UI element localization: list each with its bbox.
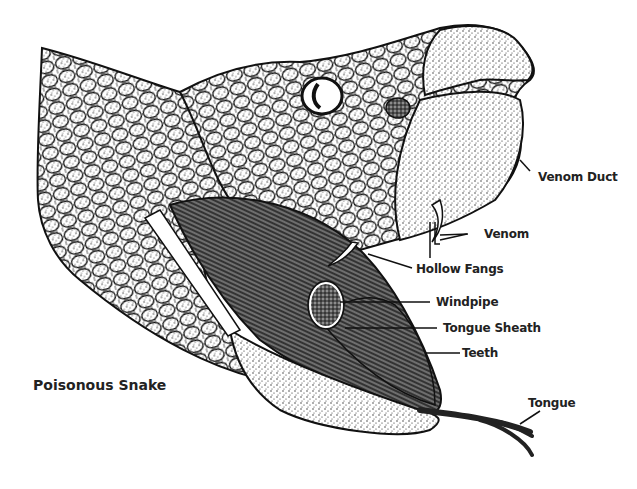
eye	[302, 78, 342, 114]
heat-pit	[386, 98, 410, 118]
label-venom: Venom	[484, 227, 529, 241]
label-tongue: Tongue	[528, 396, 575, 410]
label-tongue-sheath: Tongue Sheath	[443, 321, 541, 335]
label-venom-duct: Venom Duct	[538, 170, 618, 184]
label-windpipe: Windpipe	[436, 295, 498, 309]
label-hollow-fangs: Hollow Fangs	[416, 262, 504, 276]
snake-head-illustration	[0, 0, 637, 489]
label-teeth: Teeth	[462, 346, 498, 360]
diagram-title: Poisonous Snake	[33, 377, 166, 393]
windpipe-opening	[310, 283, 342, 327]
